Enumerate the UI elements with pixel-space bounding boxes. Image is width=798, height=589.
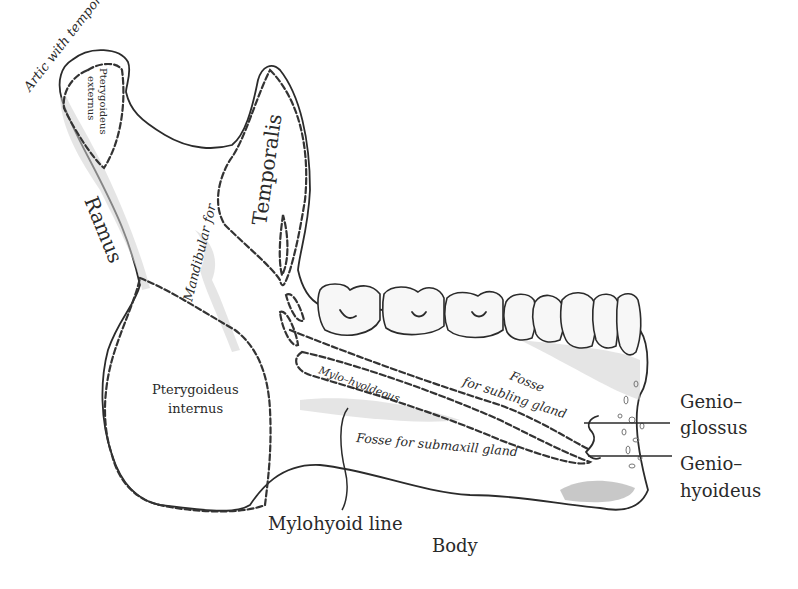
label-genioglossus-2: glossus xyxy=(680,417,747,438)
tooth-molar-2 xyxy=(383,287,444,335)
tooth-premolar-1 xyxy=(533,295,564,342)
label-genioglossus-1: Genio– xyxy=(680,391,742,412)
tooth-canine xyxy=(561,293,596,348)
tooth-incisor-lateral xyxy=(593,294,619,348)
tooth-molar-3 xyxy=(318,284,380,335)
label-geniohyoideus-1: Genio– xyxy=(680,453,742,474)
label-pterygoideus-externus-2: externus xyxy=(86,76,97,120)
label-body: Body xyxy=(432,535,479,556)
label-pterygoideus-internus-2: internus xyxy=(168,401,223,416)
label-pterygoideus-internus-1: Pterygoideus xyxy=(152,382,239,397)
label-mylohyoid-line: Mylohyoid line xyxy=(268,513,403,534)
tooth-premolar-2 xyxy=(504,294,536,340)
label-pterygoideus-externus-1: Pterygoideus xyxy=(98,68,109,135)
tooth-incisor-central xyxy=(617,294,641,355)
label-geniohyoideus-2: hyoideus xyxy=(680,480,761,501)
mandible-diagram: Artic with temporals Pterygoideus extern… xyxy=(0,0,798,589)
